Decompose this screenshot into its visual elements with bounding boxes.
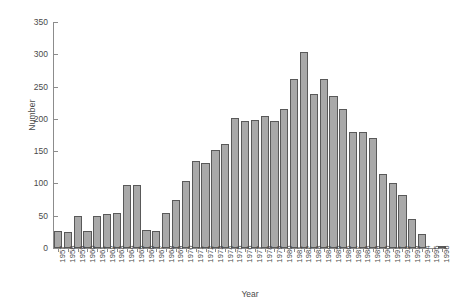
bar-slot — [240, 22, 250, 248]
x-tick-slot: 1989 — [368, 249, 378, 291]
bar — [231, 118, 239, 248]
bar — [162, 213, 170, 248]
bar — [408, 219, 416, 248]
y-tick-label: 200 — [22, 115, 48, 124]
bar-slot — [338, 22, 348, 248]
bar — [241, 121, 249, 248]
x-tick-slot: 1959 — [73, 249, 83, 291]
x-tick-slot: 1974 — [220, 249, 230, 291]
bar-slot — [201, 22, 211, 248]
y-tick-label: 100 — [22, 179, 48, 188]
bar-slot — [407, 22, 417, 248]
bar — [201, 163, 209, 248]
bar — [261, 116, 269, 248]
bar — [74, 216, 82, 248]
bar — [113, 213, 121, 249]
x-tick-slot: 1971 — [191, 249, 201, 291]
x-tick-slot: 1970 — [181, 249, 191, 291]
x-tick-slot: 1993 — [407, 249, 417, 291]
x-tick-slot: 1986 — [338, 249, 348, 291]
bar-slot — [260, 22, 270, 248]
x-tick-slot: 1990 — [378, 249, 388, 291]
bar — [123, 185, 131, 248]
x-tick-slot: 1960 — [83, 249, 93, 291]
bar — [310, 94, 318, 248]
x-tick-slot: 1968 — [161, 249, 171, 291]
x-tick-slot: 1983 — [309, 249, 319, 291]
bar-slot — [279, 22, 289, 248]
bar — [359, 132, 367, 248]
plot-area: 050100150200250300350 — [53, 22, 447, 248]
bar — [320, 79, 328, 248]
bar-slot — [427, 22, 437, 248]
bar-slot — [92, 22, 102, 248]
bar — [93, 216, 101, 248]
y-tick-label: 350 — [22, 18, 48, 27]
bar — [300, 52, 308, 248]
bar — [339, 109, 347, 248]
bar — [103, 214, 111, 248]
x-tick-slot: 1966 — [142, 249, 152, 291]
bar-slot — [83, 22, 93, 248]
x-tick-slot: 1961 — [92, 249, 102, 291]
bar-slot — [220, 22, 230, 248]
bar-slot — [53, 22, 63, 248]
x-tick-slot: 1992 — [398, 249, 408, 291]
bar-slot — [250, 22, 260, 248]
bar-slot — [388, 22, 398, 248]
x-tick-slot: 1967 — [151, 249, 161, 291]
bar-slot — [211, 22, 221, 248]
bar-slot — [309, 22, 319, 248]
bar-slot — [368, 22, 378, 248]
x-tick-label: 1996 — [442, 245, 451, 262]
x-tick-slot: 1972 — [201, 249, 211, 291]
bar-slot — [132, 22, 142, 248]
bar — [329, 96, 337, 248]
bar-chart-figure: Number 050100150200250300350 19571958195… — [0, 0, 454, 308]
bar — [389, 183, 397, 248]
bar-slot — [73, 22, 83, 248]
bar-slot — [417, 22, 427, 248]
bar — [192, 161, 200, 248]
y-tick-label: 300 — [22, 50, 48, 59]
x-tick-slot: 1975 — [230, 249, 240, 291]
bar — [349, 132, 357, 248]
bar — [398, 195, 406, 248]
x-tick-slot: 1987 — [348, 249, 358, 291]
x-tick-slot: 1958 — [63, 249, 73, 291]
bar — [290, 79, 298, 248]
x-tick-slot: 1994 — [417, 249, 427, 291]
bar-slot — [102, 22, 112, 248]
bar-slot — [398, 22, 408, 248]
bar-slot — [63, 22, 73, 248]
bar — [369, 138, 377, 248]
bar-slot — [358, 22, 368, 248]
x-tick-slot: 1978 — [260, 249, 270, 291]
x-tick-slot: 1979 — [270, 249, 280, 291]
bar-series — [53, 22, 447, 248]
x-tick-slot: 1982 — [299, 249, 309, 291]
x-tick-slot: 1957 — [53, 249, 63, 291]
bar — [133, 185, 141, 248]
bar-slot — [122, 22, 132, 248]
bar — [182, 181, 190, 248]
y-tick-label: 50 — [22, 212, 48, 221]
y-tick-label: 150 — [22, 147, 48, 156]
y-tick-label: 250 — [22, 83, 48, 92]
bar-slot — [171, 22, 181, 248]
x-tick-slot: 1976 — [240, 249, 250, 291]
x-axis-ticks: 1957195819591960196119621963196419651966… — [53, 249, 447, 291]
bar — [270, 121, 278, 248]
x-tick-slot: 1988 — [358, 249, 368, 291]
bar — [211, 150, 219, 248]
x-tick-slot: 1996 — [437, 249, 447, 291]
x-tick-slot: 1963 — [112, 249, 122, 291]
x-tick-slot: 1981 — [289, 249, 299, 291]
x-tick-slot: 1980 — [279, 249, 289, 291]
bar-slot — [437, 22, 447, 248]
bar-slot — [151, 22, 161, 248]
bar-slot — [181, 22, 191, 248]
bar — [379, 174, 387, 248]
bar — [172, 200, 180, 248]
x-tick-slot: 1964 — [122, 249, 132, 291]
